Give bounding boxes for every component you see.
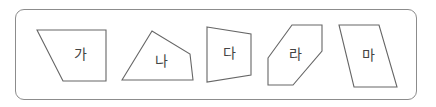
shapes-canvas: 가 나 다 라 마 [0, 0, 436, 107]
shape-ma: 마 [339, 25, 397, 87]
shape-na: 나 [122, 31, 193, 80]
shape-label-na: 나 [155, 53, 168, 69]
shape-da: 다 [207, 27, 251, 82]
shape-label-da: 다 [223, 45, 236, 61]
shape-ga: 가 [37, 30, 106, 81]
shape-label-ma: 마 [362, 47, 375, 63]
shape-label-ga: 가 [74, 46, 87, 62]
shape-ra: 라 [268, 25, 322, 85]
shape-label-ra: 라 [289, 46, 302, 62]
quadrilateral-ga-icon [37, 30, 106, 81]
